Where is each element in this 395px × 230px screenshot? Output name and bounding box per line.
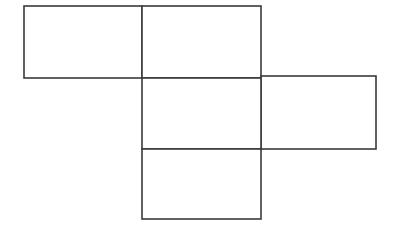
- center-face: [142, 78, 261, 149]
- top-middle-face: [142, 6, 261, 78]
- cube-net-diagram: [0, 0, 395, 230]
- figure-canvas: [0, 0, 395, 230]
- top-left-face: [24, 6, 142, 78]
- right-face: [261, 76, 376, 149]
- bottom-face: [142, 149, 261, 219]
